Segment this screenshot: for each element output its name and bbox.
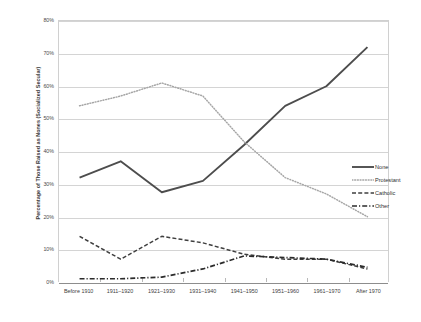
y-tick-label: 80% xyxy=(32,17,54,23)
legend-swatch-protestant-icon xyxy=(352,175,374,185)
series-line-other xyxy=(80,256,368,279)
y-axis-tick-labels: 0%10%20%30%40%50%60%70%80% xyxy=(30,0,54,322)
legend-swatch-none-icon xyxy=(352,162,374,172)
line-chart: Percentage of Those Raised as Nones (Soc… xyxy=(0,0,421,322)
legend-label: Other xyxy=(374,203,389,209)
x-tick-label: After 1970 xyxy=(338,288,398,294)
y-tick-label: 0% xyxy=(32,279,54,285)
chart-legend: NoneProtestantCatholicOther xyxy=(352,160,418,212)
x-axis-line xyxy=(59,283,388,284)
legend-swatch-other-icon xyxy=(352,201,374,211)
y-tick-label: 30% xyxy=(32,181,54,187)
y-tick-label: 70% xyxy=(32,50,54,56)
legend-label: Catholic xyxy=(374,190,395,196)
series-lines xyxy=(59,21,388,282)
y-tick-label: 10% xyxy=(32,246,54,252)
legend-item-other[interactable]: Other xyxy=(352,199,418,212)
legend-swatch-catholic-icon xyxy=(352,188,374,198)
legend-item-catholic[interactable]: Catholic xyxy=(352,186,418,199)
y-tick-label: 50% xyxy=(32,115,54,121)
legend-label: None xyxy=(374,164,388,170)
legend-item-none[interactable]: None xyxy=(352,160,418,173)
series-line-protestant xyxy=(80,83,368,217)
y-tick-label: 40% xyxy=(32,148,54,154)
legend-item-protestant[interactable]: Protestant xyxy=(352,173,418,186)
legend-label: Protestant xyxy=(374,177,401,183)
series-line-catholic xyxy=(80,236,368,269)
x-axis-tick-labels: Before 19101911–19201921–19301931–194019… xyxy=(58,288,389,302)
plot-area xyxy=(58,20,389,282)
series-line-none xyxy=(80,47,368,192)
y-tick-label: 20% xyxy=(32,214,54,220)
y-tick-label: 60% xyxy=(32,83,54,89)
